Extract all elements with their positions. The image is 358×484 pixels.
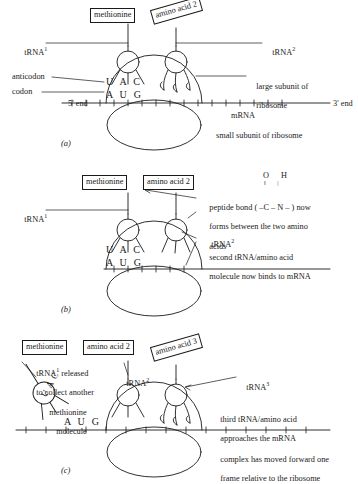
large-subunit-label: large subunit of ribosome	[248, 72, 308, 121]
anticodon-label: anticodon	[12, 72, 45, 82]
trna1-molecule	[112, 24, 144, 84]
small-subunit-shape-c	[107, 427, 201, 477]
panel-c-translocation: methionine amino acid 2 amino acid 3 tRN…	[0, 325, 358, 484]
trna2-label-a: tRNA2	[264, 38, 295, 67]
second-trna-text: second tRNA/amino acid molecule now bind…	[201, 243, 311, 292]
methionine-box-b[interactable]: methionine	[82, 175, 127, 190]
peptide-bond-formula: O H ‖ |	[262, 172, 292, 185]
codon-label: codon	[12, 87, 32, 97]
trna1-released-text: tRNA1 released to collect another methio…	[28, 359, 94, 447]
trna1-label-b: tRNA1	[16, 205, 47, 234]
amino-acid-2-box-c[interactable]: amino acid 2	[83, 340, 134, 355]
small-subunit-shape	[107, 100, 201, 150]
codon-bases-b: A U G	[106, 257, 143, 268]
codon-bases-c: A U G	[64, 416, 101, 427]
complex-moved-text: complex has moved forward one frame rela…	[212, 445, 329, 484]
trna3-molecule	[160, 365, 190, 425]
anticodon-bases-a: U A C	[106, 76, 142, 87]
panel-b-caption: (b)	[61, 304, 71, 314]
small-subunit-label: small subunit of ribosome	[216, 131, 302, 141]
panel-a-initiation: methionine amino acid 2 tRNA1 tRNA2 anti…	[0, 0, 358, 160]
anticodon-bases-b: U A C	[106, 244, 142, 255]
formula-bonds: ‖ |	[264, 180, 292, 185]
amino-acid-2-box-b[interactable]: amino acid 2	[143, 175, 194, 190]
trna3-label-c: tRNA3	[238, 373, 269, 402]
codon-bases-a: A U G	[106, 89, 143, 100]
panel-c-caption: (c)	[61, 465, 70, 475]
leader-lines	[42, 43, 262, 92]
methionine-box-c[interactable]: methionine	[22, 340, 67, 355]
panel-b-peptide-bond: methionine amino acid 2 O H ‖ | tRNA1 pe…	[0, 160, 358, 325]
five-prime-end-a: 5' end	[68, 99, 88, 109]
methionine-box-a[interactable]: methionine	[90, 8, 135, 23]
trna2-label-c: tRNA2	[118, 369, 149, 398]
trna2-molecule-b	[162, 193, 190, 253]
trna1-label-a: tRNA1	[16, 38, 47, 67]
formula-atoms: O H	[263, 172, 292, 180]
panel-a-caption: (a)	[61, 138, 71, 148]
three-prime-end-a: 3' end	[333, 99, 353, 109]
small-subunit-shape-b	[107, 266, 201, 316]
